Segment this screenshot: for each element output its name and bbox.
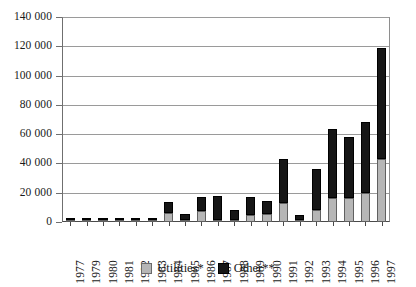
bar-group xyxy=(328,17,337,222)
legend-swatch-other-icon xyxy=(218,263,229,274)
stacked-bar-chart: 140 000120 000100 00080 00060 00040 0002… xyxy=(0,0,416,287)
bar-group xyxy=(312,17,321,222)
bar-group xyxy=(115,17,124,222)
bar-segment-utilities xyxy=(262,214,271,222)
legend-label-other: Other** xyxy=(234,262,275,275)
x-tick-mark xyxy=(152,222,153,226)
y-tick-label: 120 000 xyxy=(14,40,52,52)
x-axis: 1977197919801981198219831984198519861987… xyxy=(62,228,390,262)
x-tick-mark xyxy=(283,222,284,226)
bar-segment-other xyxy=(213,196,222,220)
bar-stack xyxy=(328,129,337,222)
bar-segment-utilities xyxy=(361,193,370,222)
bar-segment-other xyxy=(328,129,337,198)
bar-stack xyxy=(377,48,386,222)
x-tick-mark xyxy=(316,222,317,226)
bar-segment-other xyxy=(230,210,239,220)
bar-group xyxy=(66,17,75,222)
bar-segment-other xyxy=(312,169,321,210)
y-tick-mark xyxy=(56,222,62,223)
bar-stack xyxy=(312,169,321,222)
x-tick-mark xyxy=(365,222,366,226)
y-tick-label: 60 000 xyxy=(20,128,52,140)
x-tick-mark xyxy=(136,222,137,226)
y-tick-mark xyxy=(56,105,62,106)
bar-group xyxy=(344,17,353,222)
bar-stack xyxy=(213,196,222,222)
x-tick-mark xyxy=(333,222,334,226)
x-tick-mark xyxy=(87,222,88,226)
y-tick-mark xyxy=(56,163,62,164)
y-tick-label: 100 000 xyxy=(14,70,52,82)
bar-segment-other xyxy=(197,197,206,211)
legend-item-utilities: Utilities* xyxy=(141,262,204,275)
bar-segment-utilities xyxy=(377,159,386,222)
bar-stack xyxy=(361,122,370,222)
x-tick-mark xyxy=(382,222,383,226)
y-tick-mark xyxy=(56,193,62,194)
bar-segment-other xyxy=(262,201,271,214)
bar-group xyxy=(361,17,370,222)
bar-segment-utilities xyxy=(344,198,353,222)
legend-item-other: Other** xyxy=(218,262,275,275)
x-tick-mark xyxy=(201,222,202,226)
y-tick-mark xyxy=(56,17,62,18)
bar-segment-utilities xyxy=(197,211,206,222)
x-tick-mark xyxy=(300,222,301,226)
y-tick-mark xyxy=(56,134,62,135)
bar-segment-other xyxy=(246,197,255,215)
x-tick-mark xyxy=(119,222,120,226)
y-tick-label: 20 000 xyxy=(20,187,52,199)
bar-group xyxy=(98,17,107,222)
bar-segment-other xyxy=(164,202,173,213)
x-tick-mark xyxy=(185,222,186,226)
x-tick-mark xyxy=(251,222,252,226)
y-tick-mark xyxy=(56,76,62,77)
bar-segment-utilities xyxy=(328,198,337,222)
bar-stack xyxy=(197,197,206,222)
bar-group xyxy=(295,17,304,222)
bar-group xyxy=(262,17,271,222)
bar-group xyxy=(197,17,206,222)
bar-stack xyxy=(230,210,239,222)
bar-stack xyxy=(279,159,288,222)
x-tick-mark xyxy=(70,222,71,226)
y-tick-label: 80 000 xyxy=(20,99,52,111)
y-tick-label: 40 000 xyxy=(20,157,52,169)
bar-segment-utilities xyxy=(164,213,173,222)
bar-stack xyxy=(164,202,173,222)
y-tick-mark xyxy=(56,46,62,47)
x-tick-mark xyxy=(103,222,104,226)
bar-stack xyxy=(180,214,189,222)
bar-group xyxy=(230,17,239,222)
bar-segment-utilities xyxy=(312,210,321,222)
x-tick-mark xyxy=(234,222,235,226)
x-tick-mark xyxy=(349,222,350,226)
x-tick-mark xyxy=(169,222,170,226)
bars-layer xyxy=(62,17,390,222)
bar-segment-other xyxy=(377,48,386,159)
bar-group xyxy=(131,17,140,222)
x-tick-mark xyxy=(218,222,219,226)
bar-segment-other xyxy=(279,159,288,204)
y-tick-label: 140 000 xyxy=(14,11,52,23)
x-tick-mark xyxy=(267,222,268,226)
y-axis: 140 000120 000100 00080 00060 00040 0002… xyxy=(0,0,60,240)
bar-group xyxy=(82,17,91,222)
bar-group xyxy=(213,17,222,222)
bar-segment-other xyxy=(344,137,353,197)
bar-stack xyxy=(262,201,271,222)
bar-group xyxy=(377,17,386,222)
y-tick-label: 0 xyxy=(46,216,52,228)
chart-legend: Utilities* Other** xyxy=(0,262,416,275)
bar-group xyxy=(148,17,157,222)
bar-group xyxy=(279,17,288,222)
bar-group xyxy=(180,17,189,222)
bar-group xyxy=(246,17,255,222)
bar-segment-utilities xyxy=(246,215,255,222)
bar-segment-other xyxy=(361,122,370,193)
bar-stack xyxy=(295,215,304,222)
bar-stack xyxy=(344,137,353,222)
bar-group xyxy=(164,17,173,222)
legend-label-utilities: Utilities* xyxy=(157,262,204,275)
